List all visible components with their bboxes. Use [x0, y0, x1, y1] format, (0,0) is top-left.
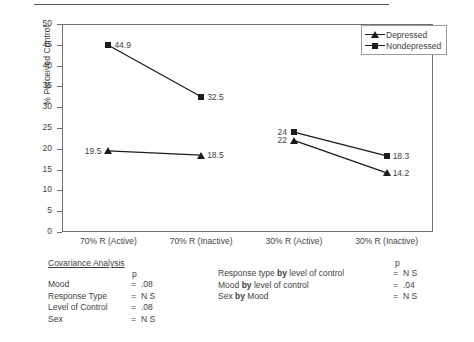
stats-row: Response type by level of control=N S	[218, 268, 417, 280]
p-value: N S	[141, 314, 155, 326]
chart-figure: % Perceived Control 05101520253035404550…	[0, 0, 474, 262]
y-tick-label: 45	[43, 39, 52, 49]
p-value: N S	[403, 291, 417, 303]
p-column-header-left: p	[48, 269, 155, 279]
y-tick-label: 25	[43, 122, 52, 132]
equals-sign: =	[126, 314, 141, 326]
equals-sign: =	[388, 280, 403, 292]
statistics-section: Covariance Analysis p Mood=.08Response T…	[0, 258, 474, 342]
y-tick-label: 35	[43, 80, 52, 90]
p-value: .08	[141, 279, 155, 291]
covariance-analysis-title: Covariance Analysis	[48, 258, 155, 268]
y-tick-label: 30	[43, 101, 52, 111]
x-axis-label-1: 70% R (Inactive)	[170, 236, 233, 246]
chart-legend: DepressedNondepressed	[361, 25, 447, 55]
effect-name: Mood	[48, 279, 126, 291]
y-tick-label: 0	[47, 226, 52, 236]
plot-area-frame	[62, 24, 433, 232]
stats-row: Sex by Mood=N S	[218, 291, 417, 303]
equals-sign: =	[126, 279, 141, 291]
effect-name: Sex	[48, 314, 126, 326]
y-tick-label: 20	[43, 143, 52, 153]
interaction-effects-table: Response type by level of control=N SMoo…	[218, 268, 417, 303]
interactions-table: p Response type by level of control=N SM…	[218, 258, 417, 303]
p-column-header-right: p	[218, 258, 417, 268]
y-tick-label: 10	[43, 184, 52, 194]
p-value: N S	[403, 268, 417, 280]
p-value: .04	[403, 280, 417, 292]
x-axis-label-0: 70% R (Active)	[80, 236, 137, 246]
legend-triangle-marker-icon	[365, 30, 385, 40]
equals-sign: =	[126, 291, 141, 303]
effect-name: Response Type	[48, 291, 126, 303]
stats-row: Level of Control=.08	[48, 302, 155, 314]
y-tick-label: 50	[43, 18, 52, 28]
main-effects-table: Mood=.08Response Type=N SLevel of Contro…	[48, 279, 155, 325]
covariance-analysis-table: Covariance Analysis p Mood=.08Response T…	[48, 258, 155, 325]
equals-sign: =	[388, 268, 403, 280]
p-value: .08	[141, 302, 155, 314]
stats-row: Mood=.08	[48, 279, 155, 291]
y-tick-label: 5	[47, 205, 52, 215]
stats-row: Response Type=N S	[48, 291, 155, 303]
legend-square-marker-icon	[365, 41, 385, 51]
y-tick-label: 40	[43, 60, 52, 70]
legend-item-depressed[interactable]: Depressed	[365, 29, 441, 40]
x-axis-label-2: 30% R (Active)	[266, 236, 323, 246]
p-value: N S	[141, 291, 155, 303]
interaction-name: Mood by level of control	[218, 280, 388, 292]
legend-item-label: Depressed	[386, 30, 427, 40]
legend-item-nondepressed[interactable]: Nondepressed	[365, 40, 441, 51]
equals-sign: =	[126, 302, 141, 314]
legend-item-label: Nondepressed	[386, 41, 441, 51]
x-axis-label-3: 30% R (Inactive)	[355, 236, 418, 246]
stats-row: Mood by level of control=.04	[218, 280, 417, 292]
effect-name: Level of Control	[48, 302, 126, 314]
y-tick-label: 15	[43, 164, 52, 174]
equals-sign: =	[388, 291, 403, 303]
y-tick-mark	[57, 232, 62, 233]
stats-row: Sex=N S	[48, 314, 155, 326]
interaction-name: Response type by level of control	[218, 268, 388, 280]
interaction-name: Sex by Mood	[218, 291, 388, 303]
